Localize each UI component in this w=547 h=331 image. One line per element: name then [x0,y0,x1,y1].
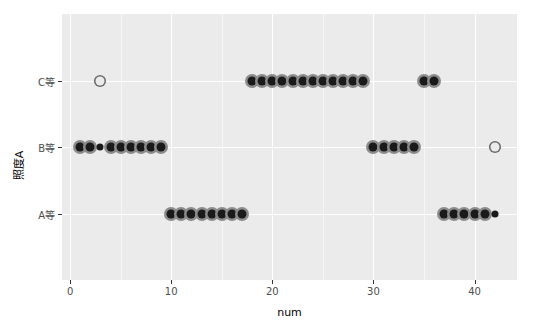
data-point [136,143,145,152]
x-axis-tick-label: 10 [165,286,178,297]
x-axis-tick [70,280,71,284]
data-point [339,76,348,85]
data-point [97,144,104,151]
x-axis-tick-label: 40 [468,286,481,297]
data-point [227,209,236,218]
y-axis-tick [58,147,62,148]
data-point [369,143,378,152]
data-point [328,76,337,85]
data-point [268,76,277,85]
data-point [106,143,115,152]
data-point [126,143,135,152]
data-point [96,76,105,85]
data-point [318,76,327,85]
data-point [308,76,317,85]
x-axis-title: num [62,306,517,319]
data-point [187,209,196,218]
data-point [86,143,95,152]
data-point [399,143,408,152]
data-point [197,209,206,218]
y-axis-tick [58,214,62,215]
y-axis-tick [58,81,62,82]
x-axis-tick-label: 20 [266,286,279,297]
data-point [76,143,85,152]
data-point [278,76,287,85]
x-axis-tick [272,280,273,284]
y-axis-title: 照度A [0,0,36,331]
data-point [177,209,186,218]
data-point [207,209,216,218]
data-point [359,76,368,85]
data-point [440,209,449,218]
data-point [167,209,176,218]
data-point [419,76,428,85]
x-axis-tick [373,280,374,284]
data-point [460,209,469,218]
data-point [288,76,297,85]
data-point [217,209,226,218]
plot-panel [62,14,517,280]
data-point [258,76,267,85]
data-point [409,143,418,152]
data-point [379,143,388,152]
chart-figure: 010203040 A等B等C等 照度A num [0,0,547,331]
data-point [389,143,398,152]
data-point [146,143,155,152]
x-axis-tick-label: 30 [367,286,380,297]
data-point [116,143,125,152]
data-point [157,143,166,152]
data-point [237,209,246,218]
data-point [248,76,257,85]
data-point [490,143,499,152]
data-point [450,209,459,218]
data-point [349,76,358,85]
data-point [298,76,307,85]
data-point [480,209,489,218]
data-point [430,76,439,85]
x-axis-tick [171,280,172,284]
gridline-horizontal-major [62,214,517,215]
x-axis-tick [475,280,476,284]
data-point [470,209,479,218]
data-point [491,210,498,217]
x-axis-tick-label: 0 [67,286,73,297]
